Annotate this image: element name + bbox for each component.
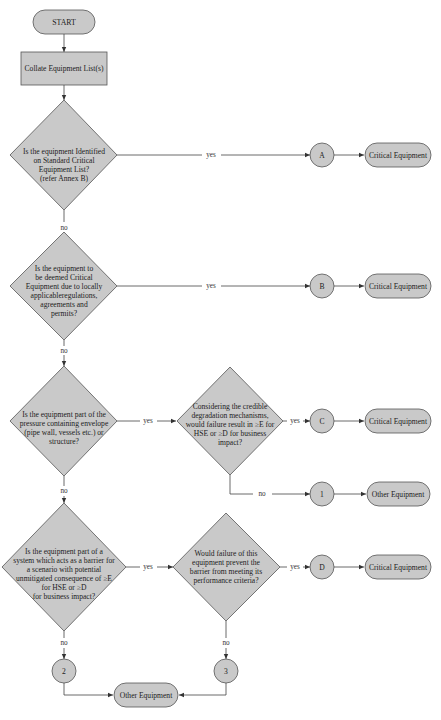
- svg-text:Other Equipment: Other Equipment: [372, 490, 425, 499]
- no-label: no: [60, 347, 68, 355]
- arrow: [64, 683, 113, 695]
- yes-label: yes: [290, 417, 300, 425]
- no-label: no: [222, 639, 230, 647]
- svg-text:would failure result in ≥E for: would failure result in ≥E for: [186, 420, 275, 429]
- svg-text:be deemed Critical: be deemed Critical: [35, 273, 92, 282]
- decision-local-regulations: Is the equipment to be deemed Critical E…: [10, 232, 117, 340]
- svg-text:performance criteria?: performance criteria?: [193, 576, 259, 585]
- svg-text:Critical Equipment: Critical Equipment: [369, 151, 428, 160]
- collate-process: Collate Equipment List(s): [21, 52, 107, 85]
- no-label: no: [60, 487, 68, 495]
- svg-text:HSE or ≥D for business: HSE or ≥D for business: [194, 429, 267, 438]
- outcome-other-1: Other Equipment: [367, 482, 430, 506]
- svg-text:Is the equipment part of the: Is the equipment part of the: [22, 410, 106, 419]
- svg-text:pressure containing envelope: pressure containing envelope: [20, 419, 109, 428]
- svg-text:Would failure of this: Would failure of this: [195, 549, 258, 558]
- svg-text:a scenario with potential: a scenario with potential: [27, 565, 101, 574]
- svg-text:Critical Equipment: Critical Equipment: [369, 282, 428, 291]
- outcome-critical-a: Critical Equipment: [365, 143, 431, 167]
- svg-text:Collate Equipment List(s): Collate Equipment List(s): [25, 64, 104, 73]
- svg-text:Other Equipment: Other Equipment: [120, 691, 173, 700]
- svg-text:for business impact?: for business impact?: [33, 592, 96, 601]
- svg-text:2: 2: [62, 667, 66, 676]
- svg-text:structure?: structure?: [49, 437, 80, 446]
- svg-text:Equipment List?: Equipment List?: [39, 165, 90, 174]
- svg-text:agreements and: agreements and: [40, 300, 88, 309]
- svg-text:Critical Equipment: Critical Equipment: [369, 563, 428, 572]
- decision-pressure-envelope: Is the equipment part of the pressure co…: [10, 366, 117, 476]
- flowchart: START Collate Equipment List(s) Is the e…: [0, 0, 441, 720]
- decision-barrier-system: Is the equipment part of a system which …: [2, 503, 126, 631]
- svg-text:degradation mechanisms,: degradation mechanisms,: [191, 411, 268, 420]
- outcome-other-final: Other Equipment: [114, 683, 178, 707]
- outcome-critical-c: Critical Equipment: [365, 409, 431, 433]
- no-label: no: [60, 224, 68, 232]
- svg-text:B: B: [319, 282, 324, 291]
- svg-text:(pipe wall, vessels etc.) or: (pipe wall, vessels etc.) or: [24, 428, 104, 437]
- yes-label: yes: [206, 282, 216, 290]
- svg-text:C: C: [319, 417, 324, 426]
- connector-c: C: [310, 409, 334, 433]
- svg-text:Is the equipment to: Is the equipment to: [35, 264, 94, 273]
- connector-line: [230, 475, 253, 494]
- svg-text:START: START: [52, 18, 76, 27]
- connector-1: 1: [310, 482, 334, 506]
- svg-text:for HSE or ≥D: for HSE or ≥D: [42, 583, 87, 592]
- svg-text:barrier from meeting its: barrier from meeting its: [190, 567, 262, 576]
- no-label: no: [258, 490, 266, 498]
- connector-3: 3: [214, 659, 238, 683]
- svg-text:Is the equipment Identified: Is the equipment Identified: [23, 147, 105, 156]
- yes-label: yes: [206, 151, 216, 159]
- outcome-critical-b: Critical Equipment: [365, 274, 431, 298]
- svg-text:3: 3: [224, 667, 228, 676]
- svg-text:impact?: impact?: [218, 438, 243, 447]
- svg-text:on Standard Critical: on Standard Critical: [33, 156, 94, 165]
- svg-text:D: D: [319, 563, 325, 572]
- svg-text:Considering the credible: Considering the credible: [193, 402, 268, 411]
- svg-text:A: A: [319, 151, 325, 160]
- yes-label: yes: [290, 563, 300, 571]
- svg-text:permits?: permits?: [51, 309, 78, 318]
- connector-a: A: [310, 143, 334, 167]
- yes-label: yes: [143, 417, 153, 425]
- svg-text:1: 1: [320, 490, 324, 499]
- svg-text:equipment prevent the: equipment prevent the: [192, 558, 261, 567]
- arrow: [179, 683, 226, 695]
- svg-text:Is the equipment part of a: Is the equipment part of a: [25, 547, 103, 556]
- outcome-critical-d: Critical Equipment: [365, 555, 431, 579]
- decision-degradation: Considering the credible degradation mec…: [177, 367, 283, 475]
- connector-d: D: [310, 555, 334, 579]
- no-label: no: [60, 639, 68, 647]
- svg-text:Critical Equipment: Critical Equipment: [369, 417, 428, 426]
- svg-text:(refer Annex B): (refer Annex B): [40, 174, 89, 183]
- yes-label: yes: [143, 563, 153, 571]
- svg-text:unmitigated consequence of ≥E: unmitigated consequence of ≥E: [16, 574, 112, 583]
- decision-standard-list: Is the equipment Identified on Standard …: [10, 100, 117, 210]
- decision-barrier-performance: Would failure of this equipment prevent …: [173, 513, 280, 621]
- svg-text:system which acts as a barrier: system which acts as a barrier for: [13, 556, 115, 565]
- connector-b: B: [310, 274, 334, 298]
- connector-2: 2: [52, 659, 76, 683]
- svg-text:applicableregulations,: applicableregulations,: [31, 291, 98, 300]
- svg-text:Equipment due to locally: Equipment due to locally: [26, 282, 103, 291]
- start-terminal: START: [33, 10, 95, 34]
